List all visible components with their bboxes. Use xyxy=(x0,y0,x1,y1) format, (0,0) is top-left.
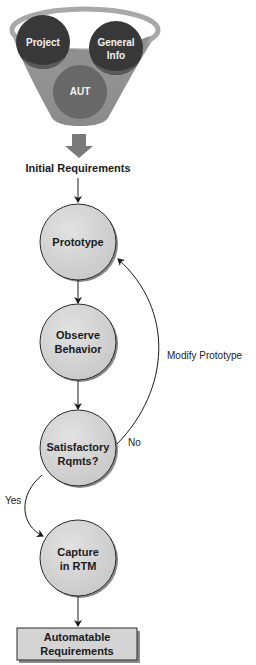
yes-label: Yes xyxy=(5,495,21,506)
edge-modify-prototype xyxy=(117,259,159,444)
funnel-input-aut: AUT xyxy=(53,65,107,119)
satisfactory-label-line2: Rqmts? xyxy=(58,455,99,467)
no-label: No xyxy=(128,437,141,448)
project-label: Project xyxy=(26,37,61,48)
modify-prototype-label: Modify Prototype xyxy=(167,350,242,361)
capture-label-line2: in RTM xyxy=(60,560,97,572)
node-capture-in-rtm[interactable]: Capture in RTM xyxy=(40,520,118,598)
general-info-label-line2: Info xyxy=(107,50,125,61)
satisfactory-label-line1: Satisfactory xyxy=(47,441,111,453)
observe-behavior-label-line2: Behavior xyxy=(54,343,102,355)
node-prototype[interactable]: Prototype xyxy=(40,204,118,282)
automatable-label-line1: Automatable xyxy=(44,631,111,643)
node-automatable-requirements[interactable]: Automatable Requirements xyxy=(17,628,140,663)
input-funnel: Project General Info AUT xyxy=(12,9,158,126)
node-observe-behavior[interactable]: Observe Behavior xyxy=(40,304,118,382)
node-satisfactory-rqmts[interactable]: Satisfactory Rqmts? xyxy=(40,410,118,488)
edge-yes xyxy=(25,475,43,536)
capture-label-line1: Capture xyxy=(57,546,99,558)
automatable-label-line2: Requirements xyxy=(40,645,113,657)
requirements-flow-diagram: Project General Info AUT Initial Require… xyxy=(0,0,256,665)
initial-requirements-label: Initial Requirements xyxy=(25,162,130,174)
funnel-output-arrow-icon xyxy=(65,134,93,158)
observe-behavior-label-line1: Observe xyxy=(56,329,100,341)
aut-label: AUT xyxy=(70,86,91,97)
prototype-label: Prototype xyxy=(52,236,103,248)
general-info-label-line1: General xyxy=(97,37,134,48)
